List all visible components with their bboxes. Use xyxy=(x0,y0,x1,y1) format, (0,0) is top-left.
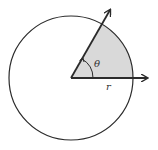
shaded-sector xyxy=(71,24,133,78)
sector-diagram: θ r xyxy=(0,0,158,150)
radius-label: r xyxy=(106,81,112,92)
theta-label: θ xyxy=(94,58,100,69)
